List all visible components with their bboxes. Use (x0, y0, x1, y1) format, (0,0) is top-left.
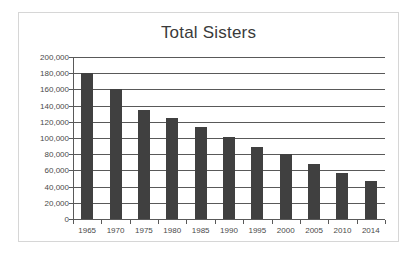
x-axis-tick-mark (328, 220, 329, 224)
x-axis-tick-mark (243, 220, 244, 224)
x-axis-tick-mark (300, 220, 301, 224)
y-axis-tick-label: 0 (25, 215, 69, 224)
y-axis-tick-label: 20,000 (25, 198, 69, 207)
x-axis-tick-mark (158, 220, 159, 224)
bar (138, 110, 150, 219)
x-axis-tick-label: 1995 (248, 226, 266, 235)
y-axis-tick-label: 140,000 (25, 101, 69, 110)
bar (166, 118, 178, 219)
y-axis-labels: 200,000180,000160,000140,000120,000100,0… (23, 57, 69, 219)
chart-title: Total Sisters (19, 23, 398, 43)
x-axis-tick-mark (385, 220, 386, 224)
bar (336, 173, 348, 219)
x-axis-tick-mark (130, 220, 131, 224)
bar (223, 137, 235, 219)
x-axis-ticks (73, 220, 385, 224)
x-axis-tick-mark (73, 220, 74, 224)
y-axis-tick-label: 200,000 (25, 53, 69, 62)
x-axis-tick-label: 2014 (362, 226, 380, 235)
gridline (73, 57, 385, 58)
chart-figure: Total Sisters 200,000180,000160,000140,0… (18, 12, 399, 242)
bar (280, 154, 292, 219)
x-axis-tick-label: 2005 (305, 226, 323, 235)
bar (365, 181, 377, 219)
x-axis-tick-label: 2010 (334, 226, 352, 235)
y-axis-tick-label: 60,000 (25, 166, 69, 175)
x-axis-tick-label: 1980 (163, 226, 181, 235)
y-axis-tick-label: 100,000 (25, 134, 69, 143)
x-axis-tick-mark (186, 220, 187, 224)
x-axis-tick-label: 1965 (78, 226, 96, 235)
x-axis-tick-mark (357, 220, 358, 224)
y-axis-tick-label: 80,000 (25, 150, 69, 159)
bar (110, 89, 122, 219)
bar (81, 73, 93, 219)
x-axis-tick-label: 1975 (135, 226, 153, 235)
y-axis-tick-label: 40,000 (25, 182, 69, 191)
x-axis-tick-mark (215, 220, 216, 224)
x-axis-labels: 1965197019751980198519901995200020052010… (73, 226, 385, 240)
x-axis-tick-mark (101, 220, 102, 224)
plot-area (73, 57, 385, 219)
y-axis-tick-label: 120,000 (25, 117, 69, 126)
y-axis-tick-label: 180,000 (25, 69, 69, 78)
x-axis-tick-mark (272, 220, 273, 224)
y-axis-tick-label: 160,000 (25, 85, 69, 94)
bar (308, 164, 320, 219)
x-axis-tick-label: 1990 (220, 226, 238, 235)
bar (251, 147, 263, 219)
gridline (73, 73, 385, 74)
bar (195, 127, 207, 219)
x-axis-tick-label: 1985 (192, 226, 210, 235)
x-axis-tick-label: 2000 (277, 226, 295, 235)
x-axis-tick-label: 1970 (107, 226, 125, 235)
